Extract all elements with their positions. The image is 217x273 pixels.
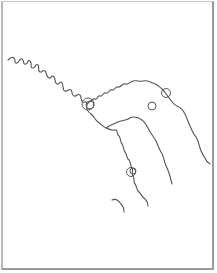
isolated-marker-icon[interactable] (148, 102, 156, 110)
river-map[interactable] (0, 0, 217, 273)
southwest-branch (112, 199, 124, 212)
river-layer (8, 57, 210, 212)
main-river-northeast (87, 81, 210, 164)
marker-layer (82, 89, 171, 177)
main-river-west (8, 57, 87, 104)
south-branch (87, 104, 148, 206)
middle-branch (106, 117, 172, 184)
